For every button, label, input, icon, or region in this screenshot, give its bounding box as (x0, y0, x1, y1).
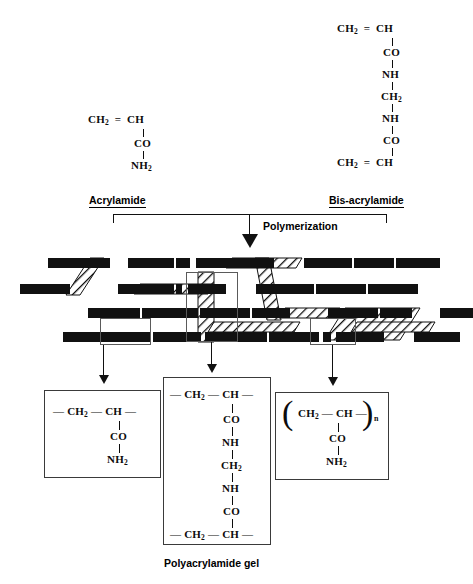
crosslink-ch-bottom: CH (222, 528, 242, 540)
crosslink-bond-2 (232, 427, 233, 436)
linear-ch2: CH2 (67, 405, 91, 417)
leader-arrow-crosslink (207, 364, 217, 373)
linear-bond-2 (119, 444, 120, 453)
callout-box-linear[interactable] (100, 318, 151, 345)
crosslink-bond-6 (232, 519, 233, 528)
crosslink-backbone-bottom: — CH2 — CH — (170, 528, 253, 544)
crosslink-nh-top: NH (222, 436, 239, 449)
crosslink-ch-top: CH (222, 388, 242, 400)
repeat-bond-2 (338, 446, 339, 455)
linear-backbone-formula: — CH2 — CH — (53, 405, 136, 421)
crosslink-dash-mid-bottom: — (208, 528, 219, 540)
figure-canvas: CH2 = CH CO NH2 CH2 = CH CO NH CH2 NH CO… (0, 0, 473, 584)
crosslink-bond-4 (232, 473, 233, 482)
linear-co: CO (110, 430, 127, 443)
linear-ch: CH (105, 405, 125, 417)
leader-arrow-repeat (328, 377, 338, 386)
repeat-nh2: NH2 (326, 455, 347, 471)
leader-line-repeat (332, 345, 333, 379)
gel-chain-row-1 (48, 258, 440, 268)
linear-nh2: NH2 (107, 453, 128, 469)
repeat-ch2: CH2 (298, 407, 319, 419)
crosslink-ch2-top: CH2 (184, 388, 208, 400)
repeat-dash-right: — (356, 407, 367, 419)
linear-bond-1 (119, 421, 120, 430)
linear-dash-left: — (53, 405, 64, 417)
linear-dash-mid: — (91, 405, 102, 417)
repeat-co: CO (329, 432, 346, 445)
crosslink-dash-mid-top: — (208, 388, 219, 400)
crosslink-bond-1 (232, 404, 233, 413)
repeat-ch: CH (336, 407, 356, 419)
crosslink-dash-left-bottom: — (170, 528, 181, 540)
crosslink-bond-3 (232, 450, 233, 459)
detail-box-crosslink: — CH2 — CH — CO NH CH2 NH CO — CH2 — CH … (163, 377, 271, 545)
paren-open: ( (282, 396, 293, 430)
repeat-dash-mid: — (322, 407, 333, 419)
callout-box-repeat[interactable] (310, 318, 356, 345)
leader-line-crosslink (211, 342, 212, 366)
crosslink-co-bottom: CO (223, 505, 240, 518)
crosslink-dash-right-top: — (242, 388, 253, 400)
repeat-bond-1 (338, 423, 339, 432)
callout-box-crosslink[interactable] (186, 272, 238, 342)
leader-line-linear (103, 345, 104, 377)
leader-arrow-linear (99, 375, 109, 384)
crosslink-nh-bottom: NH (222, 482, 239, 495)
crosslink-dash-right-bottom: — (242, 528, 253, 540)
crosslink-dash-left-top: — (170, 388, 181, 400)
figure-caption: Polyacrylamide gel (164, 557, 259, 569)
detail-box-linear-chain: — CH2 — CH — CO NH2 (44, 390, 161, 478)
crosslink-bond-5 (232, 496, 233, 505)
repeat-subscript-n: n (374, 412, 379, 425)
crosslink-backbone-top: — CH2 — CH — (170, 388, 253, 404)
linear-dash-right: — (125, 405, 136, 417)
crosslink-co-top: CO (223, 413, 240, 426)
detail-box-repeat-unit: ( ) CH2 — CH — n CO NH2 (275, 392, 389, 480)
crosslink-ch2-bottom: CH2 (184, 528, 208, 540)
repeat-backbone-formula: CH2 — CH — (298, 407, 367, 423)
